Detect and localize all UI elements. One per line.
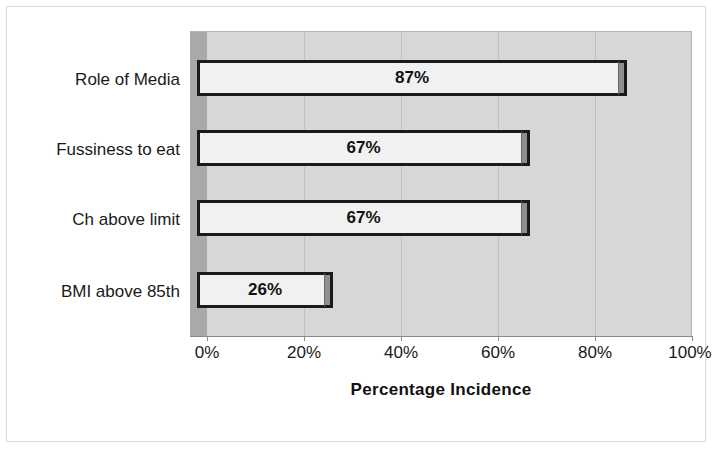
bar-role-of-media: 87%	[197, 60, 627, 96]
bar-ch-above-limit: 67%	[197, 200, 530, 236]
bar-row-role-of-media: 87%	[197, 60, 627, 96]
bar-row-ch-above-limit: 67%	[197, 200, 530, 236]
x-tick-mark-0	[207, 336, 208, 341]
bar-row-bmi-above-85th: 26%	[197, 272, 333, 308]
category-label-role-of-media: Role of Media	[4, 70, 180, 90]
x-tick-label-0: 0%	[195, 343, 220, 363]
category-label-fussiness-to-eat: Fussiness to eat	[4, 140, 180, 160]
bar-value-bmi-above-85th: 26%	[248, 280, 282, 300]
category-label-bmi-above-85th: BMI above 85th	[4, 282, 180, 302]
x-tick-mark-20	[304, 336, 305, 341]
x-tick-label-60: 60%	[481, 343, 515, 363]
category-label-ch-above-limit: Ch above limit	[4, 210, 180, 230]
bar-endcap-bmi-above-85th	[324, 272, 333, 308]
x-tick-label-100: 100%	[668, 343, 711, 363]
bar-fussiness-to-eat: 67%	[197, 130, 530, 166]
x-axis-line	[190, 336, 692, 337]
x-tick-mark-60	[498, 336, 499, 341]
x-axis-title: Percentage Incidence	[190, 380, 692, 400]
x-tick-label-20: 20%	[287, 343, 321, 363]
bar-endcap-fussiness-to-eat	[521, 130, 530, 166]
x-tick-mark-40	[401, 336, 402, 341]
x-tick-mark-100	[692, 336, 693, 341]
x-tick-label-40: 40%	[384, 343, 418, 363]
bar-value-ch-above-limit: 67%	[346, 208, 380, 228]
bar-value-role-of-media: 87%	[395, 68, 429, 88]
bar-bmi-above-85th: 26%	[197, 272, 333, 308]
chart-figure: Role of Media 87% Fussiness to eat 67% C…	[0, 0, 714, 449]
bar-endcap-role-of-media	[618, 60, 627, 96]
x-tick-label-80: 80%	[578, 343, 612, 363]
bar-endcap-ch-above-limit	[521, 200, 530, 236]
horizontal-bar-chart: Role of Media 87% Fussiness to eat 67% C…	[0, 0, 714, 449]
bar-value-fussiness-to-eat: 67%	[346, 138, 380, 158]
x-tick-mark-80	[595, 336, 596, 341]
bar-row-fussiness-to-eat: 67%	[197, 130, 530, 166]
